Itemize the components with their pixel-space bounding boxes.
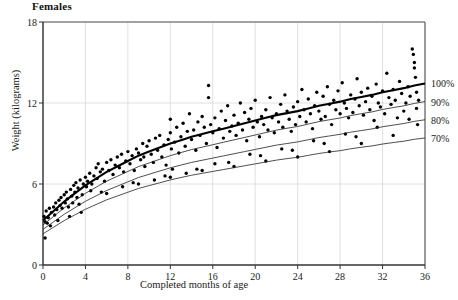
scatter-point: [383, 112, 386, 115]
scatter-point: [324, 115, 327, 118]
scatter-point: [186, 130, 189, 133]
scatter-point: [374, 82, 377, 85]
scatter-point: [368, 108, 371, 111]
scatter-point: [277, 120, 280, 123]
reference-curve-90pct: [43, 102, 425, 225]
scatter-point: [167, 138, 170, 141]
scatter-point: [105, 161, 108, 164]
scatter-point: [251, 126, 254, 129]
scatter-point: [141, 142, 144, 145]
x-tick-label: 28: [335, 271, 345, 282]
scatter-point: [175, 126, 178, 129]
scatter-point: [300, 88, 303, 91]
scatter-point: [150, 153, 153, 156]
reference-curve-70pct: [43, 138, 425, 234]
scatter-point: [387, 96, 390, 99]
scatter-point: [207, 84, 210, 87]
scatter-point: [163, 174, 166, 177]
scatter-point: [188, 112, 191, 115]
scatter-point: [398, 80, 401, 83]
scatter-point: [169, 118, 172, 121]
scatter-point: [408, 95, 411, 98]
scatter-point: [389, 103, 392, 106]
curve-label-80pct: 80%: [431, 114, 449, 125]
x-tick-label: 32: [378, 271, 388, 282]
scatter-point: [296, 100, 299, 103]
scatter-point: [413, 61, 416, 64]
scatter-point: [355, 77, 358, 80]
scatter-point: [158, 134, 161, 137]
scatter-point: [213, 116, 216, 119]
scatter-point: [137, 182, 140, 185]
x-tick-label: 20: [250, 271, 260, 282]
scatter-point: [147, 139, 150, 142]
scatter-point: [43, 236, 46, 239]
scatter-point: [415, 107, 418, 110]
scatter-point: [249, 107, 252, 110]
scatter-point: [196, 120, 199, 123]
scatter-point: [128, 162, 131, 165]
scatter-point: [315, 91, 318, 94]
scatter-point: [209, 123, 212, 126]
scatter-point: [321, 95, 324, 98]
scatter-point: [311, 127, 314, 130]
curve-label-90pct: 90%: [431, 96, 449, 107]
scatter-point: [200, 169, 203, 172]
scatter-point: [120, 153, 123, 156]
reference-curve-100pct: [43, 83, 425, 220]
scatter-point: [72, 184, 75, 187]
scatter-point: [224, 119, 227, 122]
scatter-point: [92, 174, 95, 177]
scatter-point: [330, 123, 333, 126]
y-tick-label: 6: [11, 179, 37, 190]
scatter-point: [192, 128, 195, 131]
scatter-point: [414, 76, 417, 79]
scatter-point: [84, 176, 87, 179]
scatter-point: [116, 155, 119, 158]
scatter-point: [360, 142, 363, 145]
scatter-point: [317, 109, 320, 112]
scatter-point: [354, 135, 357, 138]
scatter-point: [195, 167, 198, 170]
growth-chart: Females 181260 04812162024283236 100%90%…: [0, 0, 458, 300]
scatter-point: [279, 103, 282, 106]
scatter-point: [143, 165, 146, 168]
scatter-point: [292, 105, 295, 108]
scatter-point: [338, 112, 341, 115]
curve-label-100pct: 100%: [431, 78, 454, 89]
scatter-point: [63, 193, 66, 196]
x-axis-title: Completed months of age: [140, 279, 248, 290]
scatter-point: [413, 66, 416, 69]
scatter-point: [404, 101, 407, 104]
scatter-point: [190, 138, 193, 141]
y-tick-label: 18: [11, 17, 37, 28]
scatter-point: [234, 134, 237, 137]
scatter-point: [169, 131, 172, 134]
scatter-point: [65, 190, 68, 193]
scatter-point: [164, 163, 167, 166]
scatter-point: [239, 101, 242, 104]
scatter-point: [44, 209, 47, 212]
reference-curve-80pct: [43, 120, 425, 230]
scatter-point: [243, 111, 246, 114]
scatter-point: [111, 173, 114, 176]
scatter-point: [169, 176, 172, 179]
scatter-point: [170, 147, 173, 150]
scatter-point: [131, 181, 134, 184]
scatter-point: [416, 123, 419, 126]
scatter-point: [400, 92, 403, 95]
scatter-point: [203, 126, 206, 129]
scatter-point: [319, 118, 322, 121]
x-tick-label: 4: [83, 271, 88, 282]
scatter-point: [290, 130, 293, 133]
scatter-point: [402, 109, 405, 112]
scatter-point: [228, 130, 231, 133]
scatter-point: [415, 91, 418, 94]
scatter-point: [309, 112, 312, 115]
scatter-point: [179, 135, 182, 138]
scatter-point: [283, 93, 286, 96]
scatter-point: [88, 172, 91, 175]
scatter-point: [396, 116, 399, 119]
scatter-point: [385, 72, 388, 75]
scatter-point: [52, 205, 55, 208]
